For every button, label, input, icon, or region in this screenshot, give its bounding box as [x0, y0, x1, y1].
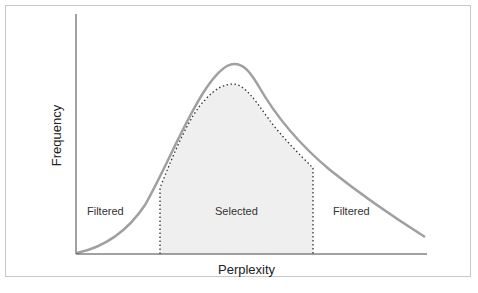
filtered-right-label: Filtered	[333, 205, 370, 217]
selected-label: Selected	[215, 205, 258, 217]
x-axis-label: Perplexity	[218, 262, 275, 277]
distribution-plot	[0, 0, 478, 293]
y-axis-label: Frequency	[49, 105, 64, 166]
selected-region	[160, 84, 313, 254]
filtered-left-label: Filtered	[87, 205, 124, 217]
